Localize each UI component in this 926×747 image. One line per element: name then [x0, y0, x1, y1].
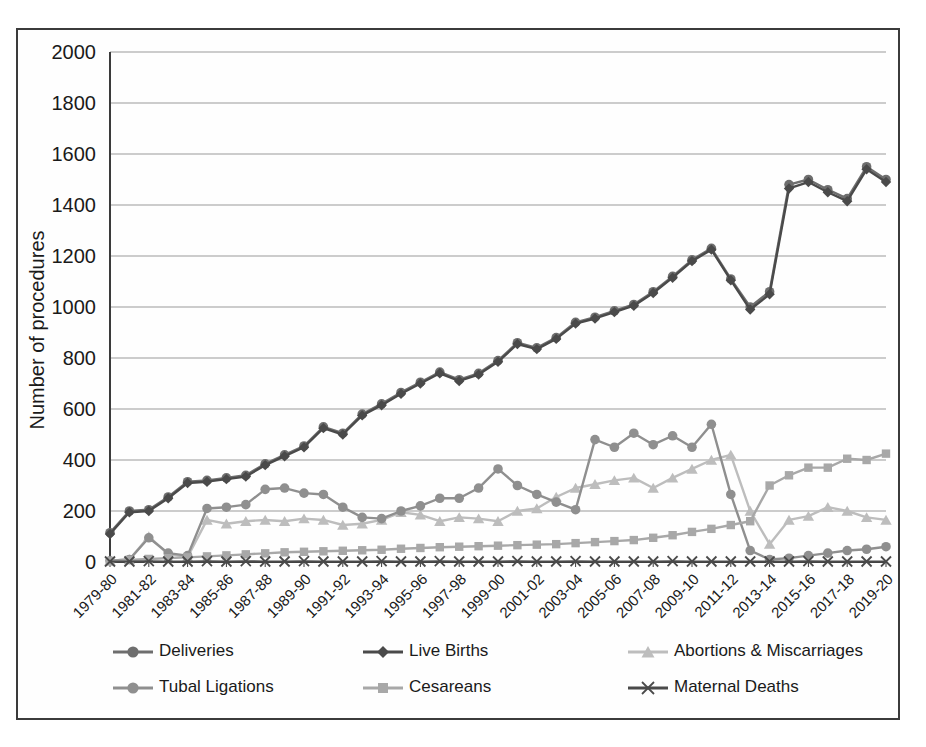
data-point-circle: [127, 646, 138, 657]
data-point-square: [804, 463, 812, 471]
data-point-circle: [454, 493, 464, 503]
data-point-square: [397, 545, 405, 553]
data-point-square: [261, 549, 269, 557]
legend-item-maternal-deaths[interactable]: Maternal Deaths: [628, 677, 799, 696]
legend-item-cesareans[interactable]: Cesareans: [363, 677, 491, 696]
data-point-triangle: [648, 483, 659, 493]
data-point-circle: [842, 546, 852, 556]
legend-item-deliveries[interactable]: Deliveries: [113, 641, 234, 660]
data-point-square: [533, 540, 541, 548]
data-point-circle: [648, 440, 658, 450]
data-point-square: [862, 456, 870, 464]
data-point-circle: [881, 542, 891, 552]
series-layer: [104, 162, 891, 567]
data-point-square: [494, 541, 502, 549]
data-point-square: [455, 543, 463, 551]
data-point-circle: [862, 544, 872, 554]
y-tick-label: 800: [63, 347, 96, 369]
legend-item-live-births[interactable]: Live Births: [363, 641, 488, 660]
data-point-circle: [241, 500, 251, 510]
data-point-circle: [202, 504, 212, 514]
chart-frame: 0200400600800100012001400160018002000 19…: [16, 28, 900, 720]
legend-item-abortions-miscarriages[interactable]: Abortions & Miscarriages: [628, 641, 863, 660]
data-point-circle: [127, 682, 138, 693]
data-point-square: [358, 546, 366, 554]
data-point-square: [513, 541, 521, 549]
plot-area: 0200400600800100012001400160018002000 19…: [18, 30, 898, 718]
data-point-circle: [551, 497, 561, 507]
data-point-square: [300, 548, 308, 556]
data-point-diamond: [377, 646, 389, 658]
data-point-circle: [493, 464, 503, 474]
data-point-square: [727, 521, 735, 529]
data-point-square: [280, 548, 288, 556]
legend-label: Maternal Deaths: [674, 677, 799, 696]
data-point-square: [319, 547, 327, 555]
legend-label: Deliveries: [159, 641, 234, 660]
data-point-square: [552, 540, 560, 548]
y-axis-tick-labels: 0200400600800100012001400160018002000: [52, 41, 97, 573]
data-point-circle: [513, 481, 523, 491]
data-point-circle: [357, 513, 367, 523]
y-tick-label: 1400: [52, 194, 97, 216]
data-point-square: [436, 543, 444, 551]
data-point-circle: [396, 506, 406, 516]
legend-item-tubal-ligations[interactable]: Tubal Ligations: [113, 677, 274, 696]
legend-label: Cesareans: [409, 677, 491, 696]
legend-label: Tubal Ligations: [159, 677, 274, 696]
data-point-square: [125, 556, 133, 564]
y-tick-label: 1000: [52, 296, 97, 318]
data-point-triangle: [667, 473, 678, 483]
data-point-circle: [629, 428, 639, 438]
data-point-square: [746, 517, 754, 525]
y-tick-label: 0: [85, 551, 96, 573]
data-point-square: [707, 525, 715, 533]
data-point-circle: [299, 488, 309, 498]
y-tick-label: 200: [63, 500, 96, 522]
data-point-circle: [571, 505, 581, 515]
data-point-square: [378, 683, 388, 693]
y-tick-label: 600: [63, 398, 96, 420]
y-axis-title: Number of procedures: [26, 231, 48, 430]
data-point-square: [882, 449, 890, 457]
data-point-circle: [260, 485, 270, 495]
data-point-square: [591, 538, 599, 546]
data-point-circle: [377, 514, 387, 524]
data-point-circle: [416, 501, 426, 511]
data-point-square: [824, 463, 832, 471]
data-point-circle: [435, 493, 445, 503]
data-point-circle: [319, 490, 329, 500]
data-point-circle: [280, 483, 290, 493]
data-point-circle: [610, 442, 620, 452]
data-point-circle: [474, 483, 484, 493]
data-point-square: [688, 528, 696, 536]
y-tick-label: 2000: [52, 41, 97, 63]
y-tick-label: 400: [63, 449, 96, 471]
data-point-circle: [687, 442, 697, 452]
data-point-circle: [668, 431, 678, 441]
data-point-circle: [222, 502, 232, 512]
series-deliveries: [105, 162, 891, 538]
data-point-circle: [745, 546, 755, 556]
data-point-circle: [823, 548, 833, 558]
data-point-circle: [590, 435, 600, 445]
data-point-square: [649, 534, 657, 542]
data-point-square: [630, 536, 638, 544]
data-point-circle: [707, 420, 717, 430]
data-point-circle: [765, 555, 775, 565]
data-point-triangle: [686, 464, 697, 474]
data-point-triangle: [725, 450, 736, 460]
chart-legend: DeliveriesLive BirthsAbortions & Miscarr…: [113, 641, 863, 696]
legend-label: Abortions & Miscarriages: [674, 641, 863, 660]
data-point-square: [668, 531, 676, 539]
line-chart: 0200400600800100012001400160018002000 19…: [18, 30, 898, 718]
data-point-circle: [338, 502, 348, 512]
data-point-circle: [726, 490, 736, 500]
data-point-square: [339, 547, 347, 555]
legend-label: Live Births: [409, 641, 488, 660]
data-point-square: [765, 481, 773, 489]
data-point-square: [610, 537, 618, 545]
y-tick-label: 1600: [52, 143, 97, 165]
data-point-square: [377, 546, 385, 554]
data-point-circle: [144, 533, 154, 543]
